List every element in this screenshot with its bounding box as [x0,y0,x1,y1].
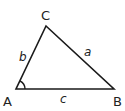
vertex-label-a: A [3,94,12,109]
vertex-label-b: B [113,94,122,109]
side-label-c: c [60,92,67,106]
triangle-abc [16,26,114,89]
side-label-b: b [19,50,27,64]
side-label-a: a [84,45,91,59]
angle-a-arc [20,81,25,89]
triangle-diagram: C A B b a c [0,0,125,111]
vertex-label-c: C [41,8,50,23]
